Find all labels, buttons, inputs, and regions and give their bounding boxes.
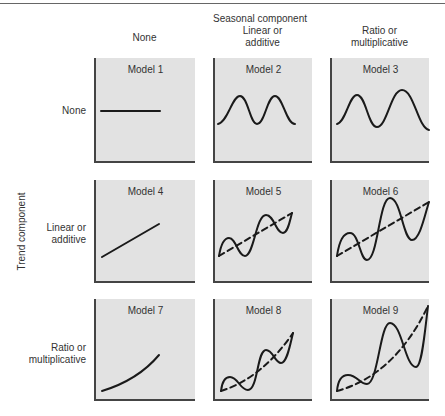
top-rule <box>0 3 445 4</box>
model-7-panel: Model 7 <box>94 299 195 401</box>
model-8-title: Model 8 <box>215 305 312 316</box>
model-5-title: Model 5 <box>215 186 312 197</box>
model-6-panel: Model 6 <box>330 180 429 283</box>
row-header-additive: Linear or additive <box>0 222 86 246</box>
model-4-panel: Model 4 <box>94 180 195 283</box>
model-3-panel: Model 3 <box>330 58 429 163</box>
column-header-multiplicative: Ratio or multiplicative <box>330 25 429 49</box>
model-6-title: Model 6 <box>332 186 429 197</box>
model-2-title: Model 2 <box>215 64 312 75</box>
model-3-title: Model 3 <box>332 64 429 75</box>
model-9-panel: Model 9 <box>330 299 429 401</box>
seasonal-component-title: Seasonal component <box>200 13 320 25</box>
model-2-panel: Model 2 <box>213 58 312 163</box>
model-1-title: Model 1 <box>96 64 195 75</box>
model-9-title: Model 9 <box>332 305 429 316</box>
model-4-title: Model 4 <box>96 186 195 197</box>
model-7-title: Model 7 <box>96 305 195 316</box>
row-header-multiplicative: Ratio or multiplicative <box>0 342 86 366</box>
column-header-additive: Linear or additive <box>213 25 312 49</box>
model-1-panel: Model 1 <box>94 58 195 163</box>
model-5-panel: Model 5 <box>213 180 312 283</box>
row-header-none: None <box>0 105 86 117</box>
model-8-panel: Model 8 <box>213 299 312 401</box>
column-header-none: None <box>94 32 195 44</box>
